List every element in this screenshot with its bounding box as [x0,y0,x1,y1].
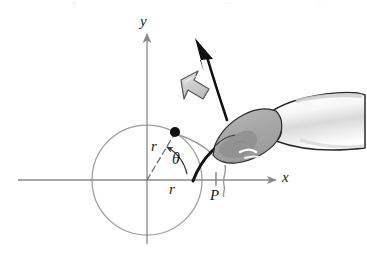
y-axis-label: y [140,14,147,29]
scan-artifacts [73,1,322,7]
figure-canvas: x y r r θ P [0,0,367,257]
point-p-label: P [210,188,219,203]
counterclockwise-rotation-arrow [195,38,227,120]
radius-label-horizontal: r [169,182,175,197]
theta-label: θ [172,151,180,167]
point-dot [170,127,180,137]
shirt-cuff [272,93,365,150]
radius-label-dashed: r [151,139,157,154]
x-axis-label: x [282,170,289,185]
figure-graphics [0,0,367,257]
gray-block-arrow-direction [181,71,209,99]
hanging-string [223,165,225,197]
hand-and-sleeve [213,93,365,197]
